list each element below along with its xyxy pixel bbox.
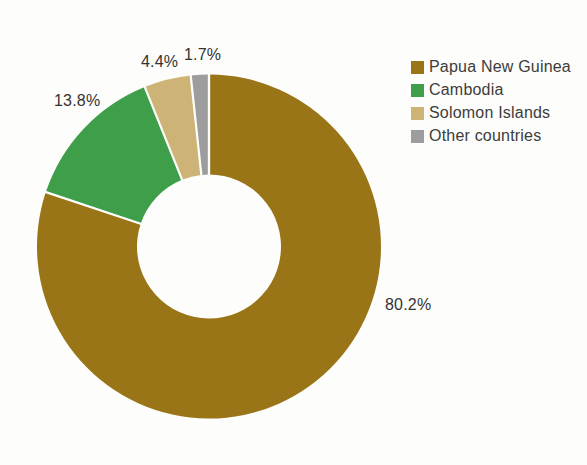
legend-label-solomon-islands: Solomon Islands bbox=[429, 104, 550, 122]
legend-label-papua-new-guinea: Papua New Guinea bbox=[429, 58, 571, 76]
slice-label-papua-new-guinea: 80.2% bbox=[385, 296, 431, 314]
slice-label-other-countries: 1.7% bbox=[184, 46, 221, 64]
legend-swatch-cambodia bbox=[411, 84, 424, 97]
legend-item-cambodia: Cambodia bbox=[411, 81, 571, 99]
legend-swatch-solomon-islands bbox=[411, 107, 424, 120]
legend-item-solomon-islands: Solomon Islands bbox=[411, 104, 571, 122]
legend-swatch-papua-new-guinea bbox=[411, 61, 424, 74]
legend-label-other-countries: Other countries bbox=[429, 127, 541, 145]
legend: Papua New Guinea Cambodia Solomon Island… bbox=[411, 58, 571, 145]
legend-swatch-other-countries bbox=[411, 130, 424, 143]
slice-label-solomon-islands: 4.4% bbox=[141, 53, 178, 71]
chart-canvas: 80.2% 13.8% 4.4% 1.7% Papua New Guinea C… bbox=[0, 0, 587, 465]
legend-label-cambodia: Cambodia bbox=[429, 81, 504, 99]
legend-item-other-countries: Other countries bbox=[411, 127, 571, 145]
slice-label-cambodia: 13.8% bbox=[54, 92, 100, 110]
legend-item-papua-new-guinea: Papua New Guinea bbox=[411, 58, 571, 76]
